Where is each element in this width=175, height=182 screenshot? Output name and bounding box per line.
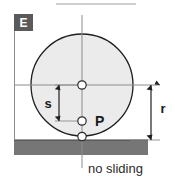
offset-label-s: s [44, 96, 51, 111]
r-arrow-bottom-icon [147, 135, 153, 141]
ground-band [14, 140, 148, 155]
radius-label-r: r [160, 101, 165, 116]
mechanics-diagram: E s r P no sliding [0, 0, 175, 182]
disk-center-node [78, 81, 86, 89]
panel-tag-label: E [19, 16, 27, 30]
r-arrow-top-icon [147, 85, 153, 91]
no-sliding-caption: no sliding [88, 161, 143, 176]
horizontal-axis-arrow-icon [155, 81, 161, 86]
contact-point-label-p: P [95, 113, 104, 129]
figure-panel-e: E s r P no sliding [0, 0, 175, 182]
offset-point-node [78, 117, 86, 125]
contact-point-node [78, 132, 86, 140]
